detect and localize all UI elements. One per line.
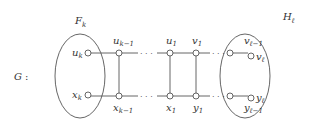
set-F-ellipse bbox=[55, 34, 105, 118]
node-y-1 bbox=[193, 93, 199, 99]
node-u-k bbox=[85, 50, 91, 56]
node-u-k-1 bbox=[116, 50, 122, 56]
nodes bbox=[85, 50, 254, 101]
node-y-l-1 bbox=[227, 93, 233, 99]
label-v-l: vℓ bbox=[256, 51, 265, 64]
graph-name-label: G: bbox=[14, 71, 28, 82]
set-F-label: Fk bbox=[74, 15, 86, 29]
label-y-1: y1 bbox=[192, 102, 203, 115]
ellipsis-top-right: · · · bbox=[212, 49, 225, 58]
ellipsis-bottom-left: · · · bbox=[140, 92, 153, 101]
node-v-l-1 bbox=[227, 50, 233, 56]
node-x-1 bbox=[167, 93, 173, 99]
label-u-1: u1 bbox=[166, 35, 177, 48]
node-x-k bbox=[85, 92, 91, 98]
label-x-k-1: xk−1 bbox=[113, 102, 133, 115]
graph-diagram: · · · · · · · · · · · · G: Fk Hℓ uk uk−1… bbox=[0, 0, 324, 126]
label-y-l: yℓ bbox=[255, 92, 265, 105]
node-y-l bbox=[248, 95, 254, 101]
ellipsis-top-left: · · · bbox=[140, 49, 153, 58]
node-v-l bbox=[248, 53, 254, 59]
set-H-label: Hℓ bbox=[282, 11, 295, 25]
label-u-k-1: uk−1 bbox=[113, 35, 134, 48]
edges bbox=[90, 53, 248, 96]
label-v-l-1: vℓ−1 bbox=[244, 35, 263, 48]
node-x-k-1 bbox=[116, 93, 122, 99]
label-x-1: x1 bbox=[166, 102, 176, 115]
node-u-1 bbox=[167, 50, 173, 56]
label-u-k: uk bbox=[72, 47, 83, 60]
label-y-l-1: yℓ−1 bbox=[243, 102, 263, 115]
ellipsis-bottom-right: · · · bbox=[212, 92, 225, 101]
label-x-k: xk bbox=[72, 89, 82, 102]
label-v-1: v1 bbox=[192, 35, 202, 48]
node-v-1 bbox=[193, 50, 199, 56]
